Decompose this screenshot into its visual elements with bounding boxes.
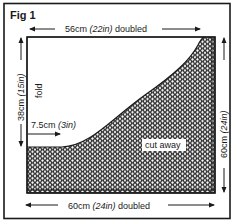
- inset-dimension-label: 7.5cm (3in): [31, 120, 76, 130]
- top-dimension-label: 56cm (22in) doubled: [65, 24, 147, 34]
- left-dimension-label: 38cm (15in): [16, 73, 26, 121]
- bottom-dimension-label: 60cm (24in) doubled: [68, 201, 150, 211]
- fig-1-diagram: Fig 1 56cm (22in) doubled 60cm (24in) do…: [0, 0, 234, 221]
- fold-label: fold: [34, 83, 44, 98]
- cut-away-label: cut away: [145, 140, 181, 150]
- figure-title: Fig 1: [10, 9, 36, 21]
- right-dimension-label: 60cm (24in): [219, 110, 229, 158]
